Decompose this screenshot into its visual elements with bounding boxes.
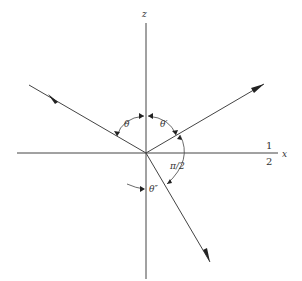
reflected-arrow-icon: [251, 84, 264, 93]
transmitted-arrow-icon: [203, 248, 210, 262]
incident-arrow-icon: [48, 94, 58, 104]
z-axis-label: z: [141, 9, 147, 19]
fraction-denominator: 2: [266, 156, 272, 167]
theta-prime-label: θ′: [160, 119, 167, 129]
theta-double-prime-label: θ″: [149, 184, 158, 194]
theta-arc: [117, 116, 144, 136]
right-angle-label: π/2: [169, 161, 185, 171]
fraction-numerator: 1: [266, 140, 272, 151]
theta-label: θ: [124, 119, 130, 129]
diagram-canvas: z x 1 2 θ θ′ π/2 θ″: [0, 0, 302, 281]
theta-double-prime-tick: [140, 186, 145, 192]
x-axis-label: x: [282, 149, 287, 159]
theta-prime-tick-left: [148, 113, 153, 119]
right-angle-arc: [167, 135, 184, 184]
theta-arc-tick-right: [139, 113, 144, 119]
